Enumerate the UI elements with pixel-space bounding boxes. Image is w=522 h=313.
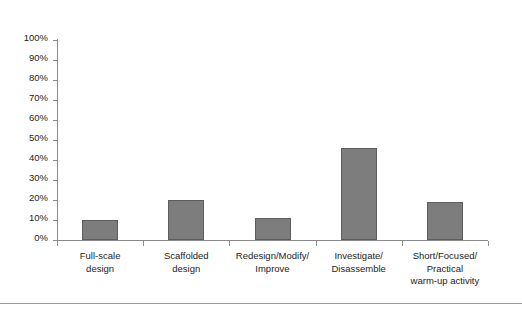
x-axis-tick-mark xyxy=(316,241,317,246)
bar xyxy=(168,200,204,240)
y-axis-tick-label: 80% xyxy=(29,73,48,83)
x-axis-tick-mark xyxy=(488,241,489,246)
bar xyxy=(82,220,118,240)
bar-chart-figure: 100%90%80%70%60%50%40%30%20%10%0% Full-s… xyxy=(0,0,522,313)
y-axis-tick-label: 60% xyxy=(29,113,48,123)
x-axis-category-label: Investigate/ Disassemble xyxy=(316,250,402,275)
bar xyxy=(255,218,291,240)
x-axis-category-label: Full-scale design xyxy=(57,250,143,275)
bar xyxy=(427,202,463,240)
x-axis-tick-mark xyxy=(402,241,403,246)
y-axis-tick-label: 20% xyxy=(29,193,48,203)
x-axis-line xyxy=(57,240,488,241)
y-axis-tick-label: 30% xyxy=(29,173,48,183)
y-axis-tick-label: 90% xyxy=(29,53,48,63)
x-axis-tick-mark xyxy=(143,241,144,246)
y-axis-tick-label: 70% xyxy=(29,93,48,103)
y-axis-tick-label: 100% xyxy=(24,33,48,43)
y-axis-tick-label: 50% xyxy=(29,133,48,143)
x-axis-tick-mark xyxy=(229,241,230,246)
x-axis-category-label: Redesign/Modify/ Improve xyxy=(229,250,315,275)
y-axis-tick-label: 10% xyxy=(29,213,48,223)
x-axis-tick-mark xyxy=(57,241,58,246)
y-axis-tick-label: 0% xyxy=(34,233,48,243)
plot-area xyxy=(57,40,488,240)
bar xyxy=(341,148,377,240)
y-axis-tick-label: 40% xyxy=(29,153,48,163)
bottom-divider xyxy=(0,303,522,304)
x-axis-category-label: Scaffolded design xyxy=(143,250,229,275)
x-axis-category-label: Short/Focused/ Practical warm-up activit… xyxy=(402,250,488,288)
